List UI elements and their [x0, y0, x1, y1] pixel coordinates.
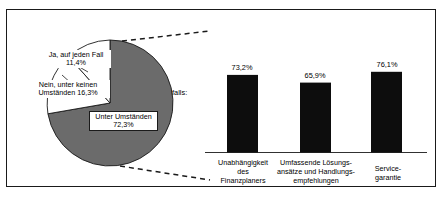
bar-category-2-line3: empfehlungen: [272, 176, 360, 185]
bar-category-1-line1: Unabhängigkeit: [205, 158, 281, 167]
pie-label-ja-line2: 11,4%: [43, 59, 109, 67]
bar-value-label-1: 73,2%: [212, 63, 272, 72]
pie-label-nein-unter-keinen-umstaenden: Nein, unter keinen Umständen 16,3%: [26, 80, 110, 98]
bar-servicegarantie[interactable]: [371, 72, 402, 153]
bar-category-3-line2: garantie: [360, 173, 416, 182]
bar-category-2-line1: Umfassende Lösungs-: [272, 158, 360, 167]
bar-chart: [205, 72, 427, 153]
pie-label-unter-umstaenden: Unter Umständen 72,3%: [89, 111, 158, 131]
pie-label-ja-auf-jeden-fall: Ja, auf jeden Fall 11,4%: [41, 50, 111, 68]
bar-value-label-2: 65,9%: [285, 71, 345, 80]
bar-value-label-3: 76,1%: [357, 60, 417, 69]
bar-category-2-line2: ansätze und Handlungs-: [272, 167, 360, 176]
bar-category-label-3: Service- garantie: [360, 164, 416, 182]
bar-category-1-line2: des: [205, 167, 281, 176]
figure-container: Ja, auf jeden Fall 11,4% Nein, unter kei…: [0, 0, 444, 200]
bar-category-3-line1: Service-: [360, 164, 416, 173]
connector-line-top: [122, 31, 210, 41]
bar-category-1-line3: Finanzplaners: [205, 176, 281, 185]
pie-label-unter-line2: 72,3%: [92, 121, 155, 129]
bar-umfassende-loesungsansaetze[interactable]: [300, 83, 331, 153]
connector-line-bottom: [120, 166, 210, 180]
bar-unabhaengigkeit-des-finanzplaners[interactable]: [227, 75, 258, 153]
bar-category-label-1: Unabhängigkeit des Finanzplaners: [205, 158, 281, 186]
bar-category-label-2: Umfassende Lösungs- ansätze und Handlung…: [272, 158, 360, 186]
connector-label-falls: falls:: [172, 88, 187, 97]
pie-label-nein-line2: Umständen 16,3%: [28, 89, 108, 97]
